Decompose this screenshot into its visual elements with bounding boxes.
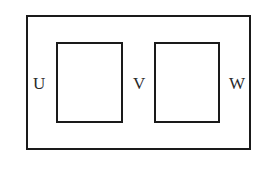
label-v: V: [133, 75, 145, 92]
label-u: U: [33, 75, 45, 92]
label-w: W: [229, 75, 245, 92]
right-inner-rectangle: [154, 42, 220, 123]
left-inner-rectangle: [56, 42, 123, 123]
